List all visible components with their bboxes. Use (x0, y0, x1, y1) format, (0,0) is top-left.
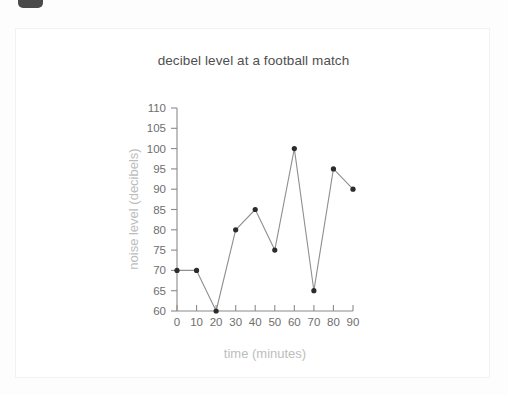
x-tick-label: 50 (268, 316, 281, 328)
data-point (350, 187, 355, 192)
x-tick-label: 80 (327, 316, 340, 328)
x-tick-label: 0 (174, 316, 180, 328)
y-axis-title: noise level (decibels) (126, 148, 141, 269)
y-axis-ticks (171, 108, 177, 311)
y-tick-label: 75 (153, 244, 166, 256)
data-point (272, 248, 277, 253)
x-axis-ticks (177, 305, 353, 311)
x-tick-label: 20 (210, 316, 223, 328)
y-tick-label: 70 (153, 264, 166, 276)
y-tick-label: 80 (153, 224, 166, 236)
x-axis-tick-labels: 0 10 20 30 40 50 60 70 80 90 (174, 316, 360, 328)
y-tick-label: 85 (153, 204, 166, 216)
chart-plot-svg: 60 65 70 75 80 85 90 95 100 105 110 (16, 29, 491, 379)
y-tick-label: 105 (147, 122, 166, 134)
x-tick-label: 40 (249, 316, 262, 328)
x-axis-title: time (minutes) (224, 346, 306, 361)
line-chart: decibel level at a football match (16, 29, 491, 379)
y-tick-label: 65 (153, 285, 166, 297)
x-tick-label: 60 (288, 316, 301, 328)
y-tick-label: 60 (153, 305, 166, 317)
y-tick-label: 95 (153, 163, 166, 175)
data-series-line (177, 149, 353, 311)
y-tick-label: 110 (148, 102, 166, 114)
data-point (233, 227, 238, 232)
x-tick-label: 90 (347, 316, 360, 328)
dark-tab-badge (18, 0, 43, 8)
y-axis-tick-labels: 60 65 70 75 80 85 90 95 100 105 110 (147, 102, 166, 317)
data-point (174, 268, 179, 273)
data-point (331, 166, 336, 171)
y-tick-label: 90 (153, 183, 166, 195)
data-point (253, 207, 258, 212)
x-tick-label: 70 (308, 316, 321, 328)
data-point (292, 146, 297, 151)
data-point (214, 308, 219, 313)
y-tick-label: 100 (147, 143, 166, 155)
x-tick-label: 30 (229, 316, 242, 328)
scanned-worksheet-card: decibel level at a football match (15, 28, 490, 378)
data-point (311, 288, 316, 293)
x-tick-label: 10 (190, 316, 203, 328)
data-point (194, 268, 199, 273)
